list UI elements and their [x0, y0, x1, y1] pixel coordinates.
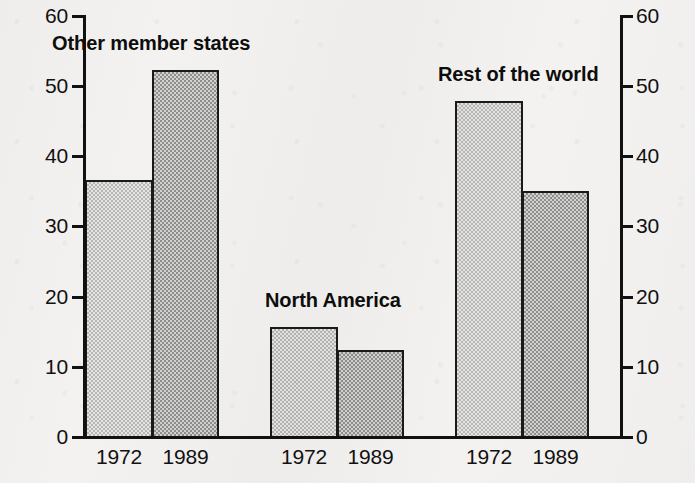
group-label-other-member-states: Other member states	[52, 32, 250, 55]
x-label-other-member-states-1972: 1972	[85, 445, 153, 469]
bar-other-member-states-1972	[85, 180, 153, 439]
bar-rest-of-the-world-1972	[455, 101, 523, 439]
left-tick-40	[72, 155, 84, 158]
right-axis-label-10: 10	[636, 356, 695, 377]
right-axis-label-50: 50	[636, 75, 695, 96]
left-axis-label-50: 50	[6, 75, 68, 96]
x-label-rest-of-the-world-1972: 1972	[455, 445, 523, 469]
left-axis-label-60: 60	[6, 5, 68, 26]
left-tick-10	[72, 366, 84, 369]
x-label-north-america-1972: 1972	[270, 445, 338, 469]
chart-page: 60 50 40 30 20 10 0 60 50 40 30 20 10 0 …	[0, 0, 695, 483]
left-axis-label-30: 30	[6, 215, 68, 236]
left-tick-20	[72, 296, 84, 299]
right-tick-40	[621, 155, 633, 158]
right-tick-20	[621, 296, 633, 299]
x-label-north-america-1989: 1989	[337, 445, 404, 469]
left-axis-label-10: 10	[6, 356, 68, 377]
right-axis-label-0: 0	[636, 426, 695, 447]
left-axis-label-20: 20	[6, 286, 68, 307]
bar-other-member-states-1989	[152, 70, 219, 439]
bar-north-america-1972	[270, 327, 338, 439]
x-axis-baseline	[83, 436, 623, 439]
x-label-rest-of-the-world-1989: 1989	[522, 445, 589, 469]
x-label-other-member-states-1989: 1989	[152, 445, 219, 469]
left-axis-label-0: 0	[6, 426, 68, 447]
group-label-north-america: North America	[265, 289, 401, 312]
right-tick-0	[621, 436, 633, 439]
bar-north-america-1989	[337, 350, 404, 439]
right-axis-label-60: 60	[636, 5, 695, 26]
left-tick-60	[72, 15, 84, 18]
right-tick-30	[621, 225, 633, 228]
right-axis-label-40: 40	[636, 145, 695, 166]
right-tick-60	[621, 15, 633, 18]
right-tick-50	[621, 85, 633, 88]
left-tick-50	[72, 85, 84, 88]
left-tick-30	[72, 225, 84, 228]
bar-rest-of-the-world-1989	[522, 191, 589, 439]
right-tick-10	[621, 366, 633, 369]
right-axis-label-30: 30	[636, 215, 695, 236]
right-axis-label-20: 20	[636, 286, 695, 307]
left-axis-label-40: 40	[6, 145, 68, 166]
left-tick-0	[72, 436, 84, 439]
group-label-rest-of-the-world: Rest of the world	[438, 63, 599, 86]
